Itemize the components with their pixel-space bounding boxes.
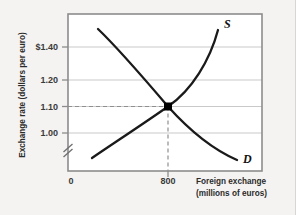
x-tick-label-800: 800 bbox=[160, 176, 175, 186]
plot-background bbox=[68, 14, 262, 171]
supply-curve-label: S bbox=[224, 17, 231, 31]
y-axis-title: Exchange rate (dollars per euro) bbox=[18, 32, 27, 158]
y-tick-label-1-10: 1.10 bbox=[40, 102, 58, 112]
x-axis-title-line1: Foreign exchange bbox=[196, 177, 267, 186]
equilibrium-point-marker bbox=[164, 103, 172, 111]
x-axis-title-line2: (millions of euros) bbox=[196, 189, 267, 198]
y-tick-label-1-40: $1.40 bbox=[35, 42, 58, 52]
y-axis-ticks bbox=[62, 47, 68, 133]
supply-demand-chart: S D $1.40 1.20 1.10 1.00 0 800 Foreign e… bbox=[0, 0, 296, 215]
origin-label: 0 bbox=[68, 176, 73, 186]
y-tick-label-1-00: 1.00 bbox=[40, 128, 58, 138]
demand-curve-label: D bbox=[242, 152, 252, 166]
y-tick-label-1-20: 1.20 bbox=[40, 75, 58, 85]
figure-container: S D $1.40 1.20 1.10 1.00 0 800 Foreign e… bbox=[0, 0, 296, 215]
